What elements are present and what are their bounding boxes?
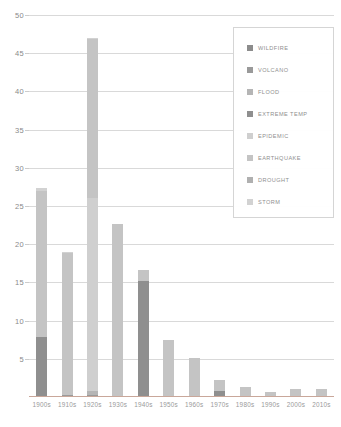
legend-item[interactable]: VOLCANO [247, 59, 333, 81]
x-axis-tick-label: 1920s [83, 401, 101, 408]
y-axis-tick-label: 5 [20, 354, 24, 363]
x-axis-tick-label: 1950s [160, 401, 178, 408]
y-axis-tick-label: 50 [15, 11, 24, 20]
bar-column[interactable]: 1900s [29, 15, 54, 397]
y-axis-tick-label: 10 [15, 316, 24, 325]
y-axis-tick-label: 40 [15, 87, 24, 96]
bar-stack[interactable] [87, 38, 98, 397]
y-axis-tick-label: 25 [15, 202, 24, 211]
legend-item-label: WILDFIRE [258, 45, 288, 51]
bar-segment[interactable] [112, 224, 123, 397]
bar-stack[interactable] [62, 252, 73, 397]
legend-swatch-icon [247, 67, 253, 73]
chart-legend: WILDFIREVOLCANOFLOODEXTREME TEMPEPIDEMIC… [233, 27, 334, 218]
y-axis-tick-label: 20 [15, 240, 24, 249]
stacked-bar-chart: 5045403530252015105 1900s1910s1920s1930s… [0, 0, 341, 427]
legend-swatch-icon [247, 199, 253, 205]
bar-segment[interactable] [36, 191, 47, 338]
bar-segment[interactable] [36, 337, 47, 397]
bar-stack[interactable] [163, 340, 174, 397]
legend-item[interactable]: DROUGHT [247, 169, 333, 191]
x-axis-tick-label: 2000s [287, 401, 305, 408]
bar-stack[interactable] [36, 188, 47, 397]
legend-item-label: DROUGHT [258, 177, 289, 183]
bar-segment[interactable] [163, 340, 174, 397]
legend-swatch-icon [247, 111, 253, 117]
bar-segment[interactable] [189, 358, 200, 397]
bar-column[interactable]: 1960s [182, 15, 207, 397]
legend-item-label: EARTHQUAKE [258, 155, 301, 161]
bar-segment[interactable] [138, 270, 149, 281]
bar-stack[interactable] [189, 358, 200, 397]
x-axis-tick-label: 1990s [261, 401, 279, 408]
x-axis-tick-label: 1960s [185, 401, 203, 408]
x-axis-tick-label: 2010s [312, 401, 330, 408]
bar-stack[interactable] [214, 380, 225, 397]
y-axis-tick-label: 30 [15, 163, 24, 172]
x-axis-tick-label: 1900s [32, 401, 50, 408]
bar-column[interactable]: 1950s [156, 15, 181, 397]
legend-item[interactable]: EPIDEMIC [247, 125, 333, 147]
legend-item[interactable]: EARTHQUAKE [247, 147, 333, 169]
bar-stack[interactable] [112, 224, 123, 397]
y-axis-tick-label: 45 [15, 49, 24, 58]
bar-column[interactable]: 1970s [207, 15, 232, 397]
x-axis-tick-label: 1980s [236, 401, 254, 408]
legend-item[interactable]: STORM [247, 191, 333, 213]
y-axis-tick-label: 15 [15, 278, 24, 287]
legend-item-label: EXTREME TEMP [258, 111, 307, 117]
legend-item-label: FLOOD [258, 89, 280, 95]
bar-column[interactable]: 1940s [131, 15, 156, 397]
bar-segment[interactable] [87, 198, 98, 391]
legend-item-label: EPIDEMIC [258, 133, 289, 139]
y-axis-tick-label: 35 [15, 125, 24, 134]
bar-column[interactable]: 1930s [105, 15, 130, 397]
bar-column[interactable]: 1910s [54, 15, 79, 397]
x-axis-baseline [29, 396, 334, 397]
legend-item[interactable]: WILDFIRE [247, 37, 333, 59]
bar-segment[interactable] [138, 281, 149, 397]
bar-segment[interactable] [87, 39, 98, 198]
x-axis-tick-label: 1940s [134, 401, 152, 408]
legend-item-label: VOLCANO [258, 67, 289, 73]
bar-segment[interactable] [62, 253, 73, 395]
legend-item[interactable]: FLOOD [247, 81, 333, 103]
x-axis-tick-label: 1910s [58, 401, 76, 408]
legend-swatch-icon [247, 45, 253, 51]
legend-swatch-icon [247, 133, 253, 139]
legend-swatch-icon [247, 89, 253, 95]
legend-swatch-icon [247, 155, 253, 161]
legend-item[interactable]: EXTREME TEMP [247, 103, 333, 125]
bar-segment[interactable] [214, 380, 225, 391]
x-axis-tick-label: 1970s [210, 401, 228, 408]
legend-item-label: STORM [258, 199, 280, 205]
bar-stack[interactable] [138, 270, 149, 397]
bar-column[interactable]: 1920s [80, 15, 105, 397]
legend-swatch-icon [247, 177, 253, 183]
x-axis-tick-label: 1930s [109, 401, 127, 408]
